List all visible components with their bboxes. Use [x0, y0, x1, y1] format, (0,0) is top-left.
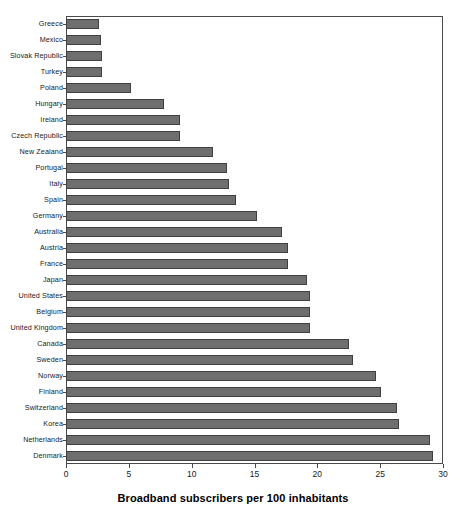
category-label: Turkey: [0, 64, 63, 80]
bar: [66, 19, 99, 29]
bar: [66, 419, 399, 429]
bar: [66, 51, 102, 61]
category-axis-labels: GreeceMexicoSlovak RepublicTurkeyPolandH…: [0, 16, 63, 464]
bar-row: [66, 80, 443, 96]
bar-row: [66, 48, 443, 64]
category-label: Korea: [0, 416, 63, 432]
bar: [66, 99, 164, 109]
bar-row: [66, 288, 443, 304]
value-tick-label: 0: [51, 469, 81, 479]
bar-row: [66, 400, 443, 416]
value-tick-label: 5: [114, 469, 144, 479]
bar-row: [66, 128, 443, 144]
category-label: United Kingdom: [0, 320, 63, 336]
bar: [66, 259, 288, 269]
bar: [66, 307, 310, 317]
category-label: Hungary: [0, 96, 63, 112]
category-label: Spain: [0, 192, 63, 208]
bar-row: [66, 144, 443, 160]
bar: [66, 35, 101, 45]
category-label: Netherlands: [0, 432, 63, 448]
category-label: France: [0, 256, 63, 272]
category-label: Finland: [0, 384, 63, 400]
bar-row: [66, 352, 443, 368]
bar-row: [66, 96, 443, 112]
bar-row: [66, 224, 443, 240]
bar-row: [66, 368, 443, 384]
category-label: Belgium: [0, 304, 63, 320]
bar: [66, 387, 381, 397]
value-axis: 051015202530: [66, 464, 443, 494]
category-label: Germany: [0, 208, 63, 224]
value-tick-mark: [192, 464, 193, 468]
value-tick-label: 20: [302, 469, 332, 479]
value-tick-mark: [129, 464, 130, 468]
bar: [66, 211, 257, 221]
bar: [66, 179, 229, 189]
value-tick-label: 10: [177, 469, 207, 479]
bar-row: [66, 112, 443, 128]
bar: [66, 227, 282, 237]
bar-row: [66, 240, 443, 256]
bar: [66, 115, 180, 125]
bar: [66, 83, 131, 93]
bar: [66, 275, 307, 285]
bar-row: [66, 208, 443, 224]
bar: [66, 163, 227, 173]
category-label: Portugal: [0, 160, 63, 176]
broadband-bar-chart: GreeceMexicoSlovak RepublicTurkeyPolandH…: [0, 0, 466, 525]
category-label: Italy: [0, 176, 63, 192]
value-tick-label: 30: [428, 469, 458, 479]
bar: [66, 435, 430, 445]
axis-title: Broadband subscribers per 100 inhabitant…: [0, 492, 466, 504]
bar: [66, 355, 353, 365]
category-label: Switzerland: [0, 400, 63, 416]
bar-row: [66, 448, 443, 464]
value-tick-label: 25: [365, 469, 395, 479]
category-label: Sweden: [0, 352, 63, 368]
bar: [66, 195, 236, 205]
bar-row: [66, 32, 443, 48]
bar-row: [66, 160, 443, 176]
bar: [66, 323, 310, 333]
bar: [66, 131, 180, 141]
category-label: Slovak Republic: [0, 48, 63, 64]
bar-row: [66, 16, 443, 32]
bar: [66, 243, 288, 253]
category-label: Mexico: [0, 32, 63, 48]
bar: [66, 147, 213, 157]
bar-row: [66, 336, 443, 352]
bar: [66, 291, 310, 301]
bar-row: [66, 416, 443, 432]
value-tick-mark: [380, 464, 381, 468]
value-tick-mark: [443, 464, 444, 468]
category-label: Poland: [0, 80, 63, 96]
bars-container: [66, 16, 443, 464]
category-label: Greece: [0, 16, 63, 32]
category-label: New Zealand: [0, 144, 63, 160]
bar-row: [66, 64, 443, 80]
bar-row: [66, 432, 443, 448]
value-tick-label: 15: [240, 469, 270, 479]
bar-row: [66, 176, 443, 192]
bar: [66, 451, 433, 461]
value-tick-mark: [317, 464, 318, 468]
bar: [66, 67, 102, 77]
bar-row: [66, 304, 443, 320]
bar-row: [66, 384, 443, 400]
bar: [66, 371, 376, 381]
bar-row: [66, 256, 443, 272]
bar: [66, 403, 397, 413]
category-label: Ireland: [0, 112, 63, 128]
category-label: Australia: [0, 224, 63, 240]
category-label: United States: [0, 288, 63, 304]
category-label: Denmark: [0, 448, 63, 464]
value-tick-mark: [255, 464, 256, 468]
bar-row: [66, 192, 443, 208]
category-label: Norway: [0, 368, 63, 384]
category-label: Czech Republic: [0, 128, 63, 144]
category-label: Japan: [0, 272, 63, 288]
category-label: Austria: [0, 240, 63, 256]
bar-row: [66, 272, 443, 288]
bar: [66, 339, 349, 349]
